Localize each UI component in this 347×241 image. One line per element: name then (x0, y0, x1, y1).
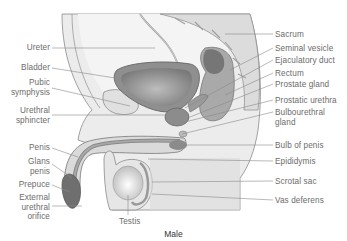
label-rectum: Rectum (275, 69, 304, 79)
label-glans-penis: Glanspenis (28, 157, 50, 176)
label-ureter: Ureter (27, 43, 50, 53)
testis-shape (113, 166, 143, 200)
label-prostate-gland: Prostate gland (275, 80, 329, 90)
label-scrotal-sac: Scrotal sac (275, 177, 317, 187)
label-epididymis: Epididymis (275, 157, 316, 167)
label-external-urethral-orifice: Externalurethralorifice (19, 193, 50, 222)
label-pubic-symphysis: Pubicsymphysis (11, 78, 50, 97)
label-bulb-of-penis: Bulb of penis (275, 141, 324, 151)
label-seminal-vesicle: Seminal vesicle (275, 44, 333, 54)
label-urethral-sphincter: Urethralsphincter (16, 106, 50, 125)
label-penis: Penis (29, 143, 50, 153)
label-testis: Testis (119, 217, 141, 227)
label-sacrum: Sacrum (275, 30, 304, 40)
label-prostatic-urethra: Prostatic urethra (275, 96, 337, 106)
figure-caption: Male (0, 229, 347, 239)
label-ejaculatory-duct: Ejaculatory duct (275, 56, 335, 66)
label-bladder: Bladder (21, 63, 50, 73)
prostate-shape (165, 108, 189, 126)
label-prepuce: Prepuce (19, 180, 50, 190)
label-vas-deferens: Vas deferens (275, 196, 324, 206)
label-bulbourethral-gland: Bulbourethralgland (275, 108, 325, 127)
